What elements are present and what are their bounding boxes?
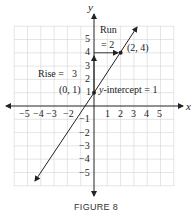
x-tick: 5 (157, 108, 162, 119)
y-intercept-rest: -intercept = 1 (103, 84, 157, 95)
y-tick: 4 (85, 46, 90, 57)
point-label-0-1: (0, 1) (59, 84, 81, 96)
y-tick: −4 (79, 153, 90, 164)
run-label-line1: Run (100, 24, 117, 35)
y-tick: −1 (79, 113, 90, 124)
point-label-2-4: (2, 4) (127, 42, 149, 54)
x-tick: 1 (105, 108, 110, 119)
y-tick: −5 (79, 167, 90, 178)
x-tick: −3 (46, 108, 57, 119)
y-tick: 3 (85, 60, 90, 71)
function-line-upper (94, 27, 137, 93)
x-tick: −5 (19, 108, 30, 119)
x-axis-label: x (185, 100, 191, 112)
y-tick: 5 (85, 33, 90, 44)
figure-caption: FIGURE 8 (0, 202, 192, 212)
rise-label: Rise = (38, 68, 64, 79)
x-tick: 3 (131, 108, 136, 119)
x-tick: 2 (118, 108, 123, 119)
x-tick: 4 (144, 108, 149, 119)
axes (6, 14, 183, 196)
run-label-line2: = 2 (101, 39, 114, 50)
x-tick-labels: −5 −4 −3 −2 1 2 3 4 5 (19, 108, 162, 119)
y-tick: −2 (79, 127, 90, 138)
y-tick: 2 (85, 73, 90, 84)
point-0-1 (92, 91, 96, 95)
y-tick: −3 (79, 140, 90, 151)
y-tick: 1 (86, 86, 91, 97)
point-2-4 (119, 51, 123, 55)
coordinate-plane: x y −5 −4 −3 −2 1 2 3 4 5 5 4 3 2 1 −1 −… (0, 0, 192, 215)
x-tick: −2 (63, 108, 74, 119)
y-intercept-label: y-intercept = 1 (98, 84, 157, 95)
x-tick: −4 (33, 108, 44, 119)
y-axis-label: y (87, 1, 93, 13)
rise-value: 3 (72, 68, 77, 79)
